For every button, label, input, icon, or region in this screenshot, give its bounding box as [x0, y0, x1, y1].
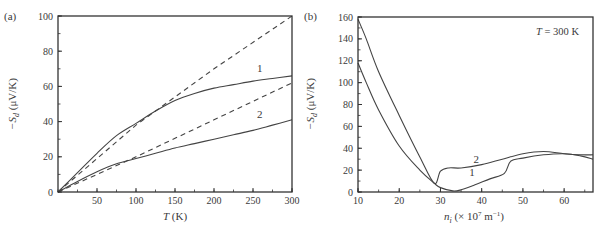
x-tick-label: 150: [168, 195, 183, 206]
y-tick-label: 100: [338, 77, 353, 88]
x-tick-label: 20: [394, 195, 404, 206]
series-line-1: [358, 63, 593, 191]
series-line-2-linear-: [58, 83, 292, 192]
y-tick-label: 0: [348, 187, 353, 198]
y-tick-label: 40: [343, 143, 353, 154]
panel-b-temperature-annotation: T = 300 K: [536, 26, 579, 37]
x-tick-label: 40: [477, 195, 487, 206]
y-tick-label: 40: [43, 116, 53, 127]
y-tick-label: 100: [38, 11, 53, 22]
panel-b-y-axis-label: −Sd (μV/K): [304, 78, 319, 130]
panel-a-label: (a): [4, 10, 17, 23]
y-tick-label: 140: [338, 33, 353, 44]
y-tick-label: 20: [43, 151, 53, 162]
panel-b-plot-area: [358, 19, 593, 191]
figure: (a) 50100150200250300020406080100 T (K) …: [0, 0, 611, 240]
panel-a-plot-area: [58, 16, 292, 192]
y-tick-label: 20: [343, 165, 353, 176]
panel-b-x-axis-label: ni (× 107 m−1): [444, 210, 504, 225]
y-tick-label: 0: [48, 187, 53, 198]
y-tick-label: 80: [343, 99, 353, 110]
panel-a-x-axis-label: T (K): [163, 210, 187, 223]
x-tick-label: 200: [207, 195, 222, 206]
series-line-1: [58, 76, 292, 192]
series-line-1-linear-: [58, 16, 292, 192]
y-tick-label: 60: [343, 121, 353, 132]
plot-frame: [58, 16, 292, 192]
x-tick-label: 50: [518, 195, 528, 206]
panel-a-chart: (a) 50100150200250300020406080100 T (K) …: [4, 10, 300, 223]
y-tick-label: 60: [43, 81, 53, 92]
panel-a-curve-1-label: 1: [257, 62, 263, 74]
x-tick-label: 30: [435, 195, 445, 206]
panel-a-curve-2-label: 2: [257, 108, 263, 120]
x-tick-label: 250: [246, 195, 261, 206]
panel-b-axes: 102030405060020406080100120140160: [338, 12, 593, 207]
panel-b-curve-1-label: 1: [469, 166, 475, 178]
panel-b-label: (b): [304, 10, 317, 23]
panel-b-chart: (b) 102030405060020406080100120140160 ni…: [304, 10, 593, 225]
x-tick-label: 60: [559, 195, 569, 206]
y-tick-label: 120: [338, 55, 353, 66]
x-tick-label: 100: [129, 195, 144, 206]
x-tick-label: 50: [92, 195, 102, 206]
panel-b-curve-2-label: 2: [473, 153, 479, 165]
y-tick-label: 80: [43, 46, 53, 57]
series-line-2: [58, 120, 292, 192]
x-tick-label: 10: [353, 195, 363, 206]
x-tick-label: 300: [285, 195, 300, 206]
y-tick-label: 160: [338, 12, 353, 23]
panel-a-y-axis-label: −Sd (μV/K): [6, 78, 21, 130]
